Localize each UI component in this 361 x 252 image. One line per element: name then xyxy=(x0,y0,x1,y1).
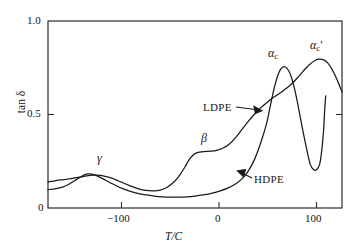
xtick-label-zero: 0 xyxy=(215,212,221,224)
xtick-label-minus100: −100 xyxy=(107,212,130,224)
annotation-alpha-c: αc xyxy=(268,46,278,61)
ytick-label-1-0: 1.0 xyxy=(27,14,41,26)
ytick-label-0-5: 0.5 xyxy=(27,107,41,119)
annotation-beta: β xyxy=(201,131,207,146)
annotation-gamma: γ xyxy=(97,151,102,166)
series-label-ldpe: LDPE xyxy=(203,101,232,113)
axis-frame xyxy=(48,21,342,208)
annotation-alpha-c-prime: αc′ xyxy=(310,38,323,53)
series-label-hdpe: HDPE xyxy=(254,173,284,185)
series-line-hdpe xyxy=(48,67,326,198)
ldpe-arrow xyxy=(236,106,262,113)
plot-frame xyxy=(48,21,342,208)
x-axis-ticks xyxy=(122,202,317,208)
alpha-c-prime-mark: ′ xyxy=(320,38,323,52)
data-curves xyxy=(48,59,342,197)
y-axis-title: tan δ xyxy=(15,72,27,132)
x-axis-title-text: T/C xyxy=(165,230,182,242)
xtick-label-hundred: 100 xyxy=(305,212,322,224)
alpha-c-subscript: c xyxy=(274,51,278,61)
figure-tan-delta-vs-temperature: 1.0 0.5 0 −100 0 100 tan δ T/C γ β αc αc… xyxy=(0,0,361,252)
y-axis-title-text: tan δ xyxy=(15,91,27,113)
ytick-label-0: 0 xyxy=(38,201,44,213)
annotation-arrows xyxy=(236,106,262,178)
series-line-ldpe xyxy=(48,59,342,191)
x-axis-title: T/C xyxy=(165,230,182,242)
